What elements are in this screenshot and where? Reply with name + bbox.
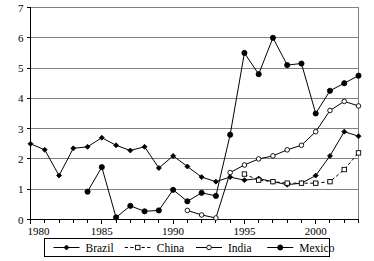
data-point-mexico-5 (156, 208, 161, 213)
data-point-china-5 (314, 181, 318, 185)
data-point-mexico-2 (113, 215, 118, 220)
data-point-china-1 (256, 178, 260, 182)
chart-container: 01234567 19801985199019952000 BrazilChin… (0, 0, 374, 261)
data-point-mexico-18 (342, 81, 347, 86)
data-point-mexico-4 (142, 209, 147, 214)
data-point-india-10 (328, 108, 333, 113)
y-tick-label-1: 1 (18, 183, 24, 195)
data-point-india-6 (271, 154, 276, 159)
data-point-india-5 (256, 157, 261, 162)
y-tick-label-4: 4 (18, 92, 24, 104)
data-point-mexico-14 (285, 62, 290, 67)
data-point-mexico-6 (171, 187, 176, 192)
data-point-india-8 (299, 143, 304, 148)
data-point-china-4 (299, 181, 303, 185)
line-chart: 01234567 19801985199019952000 BrazilChin… (0, 0, 374, 261)
x-tick-label-2000: 2000 (305, 225, 328, 237)
y-tick-label-5: 5 (18, 62, 24, 74)
x-tick-label-1980: 1980 (28, 225, 51, 237)
legend-label-india: India (228, 242, 252, 254)
x-tick-label-1995: 1995 (233, 225, 256, 237)
x-tick-label-1990: 1990 (162, 225, 185, 237)
data-point-mexico-12 (256, 72, 261, 77)
data-point-china-7 (342, 167, 346, 171)
data-point-india-legend (207, 245, 212, 250)
data-point-india-3 (228, 170, 233, 175)
data-point-mexico-8 (199, 190, 204, 195)
data-point-mexico-9 (213, 193, 218, 198)
data-point-china-legend (136, 245, 140, 249)
data-point-mexico-19 (356, 73, 361, 78)
data-point-india-11 (342, 99, 347, 104)
data-point-mexico-15 (299, 61, 304, 66)
data-point-mexico-10 (228, 132, 233, 137)
data-point-india-7 (285, 148, 290, 153)
legend-label-mexico: Mexico (299, 242, 334, 254)
y-tick-label-2: 2 (18, 153, 24, 165)
x-tick-label-1985: 1985 (91, 225, 114, 237)
data-point-mexico-1 (99, 165, 104, 170)
data-point-india-12 (356, 104, 361, 109)
data-point-mexico-17 (327, 88, 332, 93)
data-point-india-4 (242, 163, 247, 168)
data-point-mexico-0 (85, 189, 90, 194)
data-point-india-9 (313, 129, 318, 134)
data-point-mexico-3 (128, 203, 133, 208)
y-tick-label-6: 6 (18, 32, 24, 44)
data-point-china-2 (271, 179, 275, 183)
data-point-india-1 (199, 213, 204, 218)
data-point-china-3 (285, 181, 289, 185)
data-point-mexico-legend (278, 245, 283, 250)
data-point-mexico-11 (242, 50, 247, 55)
data-point-china-8 (356, 151, 360, 155)
y-tick-label-0: 0 (18, 214, 24, 226)
data-point-mexico-13 (270, 35, 275, 40)
data-point-india-2 (214, 216, 219, 221)
data-point-mexico-7 (185, 199, 190, 204)
y-tick-label-3: 3 (18, 123, 24, 135)
legend-label-china: China (157, 242, 184, 254)
legend-label-brazil: Brazil (86, 242, 114, 254)
chart-legend: BrazilChinaIndiaMexico (45, 239, 335, 257)
y-tick-label-7: 7 (18, 2, 24, 14)
data-point-china-6 (328, 179, 332, 183)
data-point-india-0 (185, 208, 190, 213)
data-point-mexico-16 (313, 111, 318, 116)
data-point-china-0 (242, 172, 246, 176)
